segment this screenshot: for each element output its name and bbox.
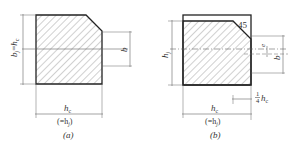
section-a-hatched — [36, 15, 102, 84]
figure-b: 45 hj e b 1 4 hc — [160, 15, 288, 140]
quarter-label: 1 4 hc — [255, 90, 269, 104]
svg-text:4: 4 — [256, 97, 260, 104]
left-dim-label-a: bj=hc — [9, 38, 20, 57]
svg-text:1: 1 — [256, 90, 259, 97]
e-label: e — [259, 44, 267, 47]
bottom-dim-paren-a: (=hj) — [57, 117, 73, 127]
figure-a: bj=hc b hc (=hj) (a) — [9, 14, 132, 140]
b-label: b — [272, 55, 282, 60]
caption-b: (b) — [210, 130, 221, 140]
bottom-dim-label-a: hc — [64, 103, 72, 114]
diagram-canvas: bj=hc b hc (=hj) (a) 45 hj — [0, 0, 300, 153]
right-dim-label-a: b — [119, 47, 129, 52]
bottom-dim-label-b: hc — [211, 103, 219, 114]
left-dim-label-b: hj — [160, 52, 171, 59]
svg-text:hc: hc — [261, 93, 269, 104]
angle-label: 45 — [238, 20, 248, 30]
bottom-dim-paren-b: (=hj) — [205, 117, 221, 127]
caption-a: (a) — [63, 130, 74, 140]
section-b-hatched — [183, 21, 251, 85]
